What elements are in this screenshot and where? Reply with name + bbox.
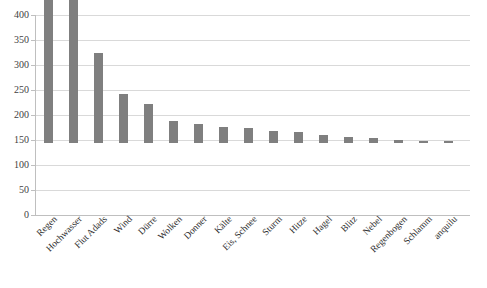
x-tick-label: Sturm <box>263 216 286 239</box>
x-tick-label-text: Hitze <box>288 215 309 236</box>
x-tick-label-text: Wolken <box>157 215 184 242</box>
bar[interactable] <box>369 138 378 144</box>
y-tick-label: 100 <box>1 160 29 170</box>
y-axis-tick <box>31 190 35 191</box>
y-tick-label: 300 <box>1 60 29 70</box>
y-axis-tick <box>31 90 35 91</box>
y-axis-tick <box>31 165 35 166</box>
bar[interactable] <box>444 141 453 143</box>
y-tick-label: 0 <box>1 210 29 220</box>
x-tick-label: Wind <box>114 216 135 237</box>
bar[interactable] <box>394 140 403 144</box>
bar[interactable] <box>94 53 103 143</box>
bar[interactable] <box>69 0 78 143</box>
x-tick-label: Blitz <box>341 216 361 236</box>
bar[interactable] <box>169 121 178 143</box>
y-tick-label: 250 <box>1 85 29 95</box>
y-axis-tick <box>31 115 35 116</box>
y-axis-tick <box>31 40 35 41</box>
bars-layer <box>36 0 470 216</box>
x-tick-label: Wolken <box>158 216 185 243</box>
x-tick-label-text: Donner <box>182 215 209 242</box>
x-tick-label-text: Wind <box>113 215 134 236</box>
bar[interactable] <box>419 141 428 144</box>
x-tick-label-text: anquilu <box>432 215 459 242</box>
x-tick-label-text: Blitz <box>340 215 360 235</box>
y-tick-label: 200 <box>1 110 29 120</box>
y-axis-tick <box>31 140 35 141</box>
y-axis-labels: 400 350 300 250 200 150 100 50 0 <box>0 0 29 288</box>
x-tick-label: Hagel <box>313 216 336 239</box>
bar[interactable] <box>44 0 53 143</box>
bar[interactable] <box>194 124 203 143</box>
bar[interactable] <box>344 137 353 144</box>
bar[interactable] <box>219 127 228 144</box>
y-axis-tick <box>31 215 35 216</box>
y-axis-tick <box>31 15 35 16</box>
bar[interactable] <box>144 104 153 144</box>
bar[interactable] <box>269 131 278 144</box>
bar[interactable] <box>294 132 303 143</box>
y-axis-tick <box>31 65 35 66</box>
x-axis-labels: Regen Hochwasser Flut Adads Wind Dürre W… <box>36 216 487 288</box>
bar[interactable] <box>244 128 253 144</box>
y-tick-label: 50 <box>1 185 29 195</box>
bar-chart: 400 350 300 250 200 150 100 50 0 <box>0 0 487 288</box>
x-tick-label-text: Sturm <box>261 215 284 238</box>
x-tick-label: Hitze <box>289 216 310 237</box>
x-tick-label: anquilu <box>434 216 461 243</box>
y-tick-label: 400 <box>1 10 29 20</box>
x-tick-label-text: Hagel <box>312 215 335 238</box>
bar[interactable] <box>319 135 328 143</box>
y-tick-label: 350 <box>1 35 29 45</box>
bar[interactable] <box>119 94 128 143</box>
x-tick-label: Donner <box>184 216 211 243</box>
y-tick-label: 150 <box>1 135 29 145</box>
